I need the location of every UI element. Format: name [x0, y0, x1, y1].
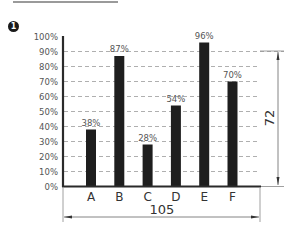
bar: [114, 56, 124, 187]
bar-value-label: 70%: [223, 70, 242, 80]
y-tick-label: 10%: [39, 167, 58, 177]
bar: [143, 145, 153, 187]
bar-value-label: 38%: [82, 118, 101, 128]
bar-value-label: 54%: [166, 94, 185, 104]
y-tick-label: 100%: [34, 32, 58, 42]
y-tick-label: 90%: [39, 47, 58, 57]
arrow-right-icon: [251, 216, 259, 219]
y-tick-label: 50%: [39, 107, 58, 117]
y-tick-label: 0%: [45, 182, 59, 192]
y-tick-label: 20%: [39, 152, 58, 162]
y-tick-label: 60%: [39, 92, 58, 102]
bars: [86, 43, 238, 187]
dim-height-label: 72: [262, 110, 277, 127]
y-tick-label: 80%: [39, 62, 58, 72]
y-tick-label: 40%: [39, 122, 58, 132]
arrow-left-icon: [64, 216, 72, 219]
y-axis-ticks: 0%10%20%30%40%50%60%70%80%90%100%: [34, 32, 58, 192]
bar-chart: 0%10%20%30%40%50%60%70%80%90%100% 38%87%…: [0, 0, 297, 235]
category-label: A: [87, 190, 96, 204]
y-tick-label: 70%: [39, 77, 58, 87]
category-label: F: [229, 190, 236, 204]
category-label: E: [200, 190, 208, 204]
bar: [228, 82, 238, 187]
bar: [171, 106, 181, 187]
dim-width-label: 105: [150, 202, 175, 217]
category-label: B: [115, 190, 123, 204]
value-labels: 38%87%28%54%96%70%: [82, 31, 242, 143]
arrow-up-icon: [277, 52, 280, 60]
bar: [199, 43, 209, 187]
bar-value-label: 96%: [195, 31, 214, 41]
bar: [86, 130, 96, 187]
y-tick-label: 30%: [39, 137, 58, 147]
arrow-down-icon: [277, 177, 280, 185]
bar-value-label: 28%: [138, 133, 157, 143]
bar-value-label: 87%: [110, 44, 129, 54]
